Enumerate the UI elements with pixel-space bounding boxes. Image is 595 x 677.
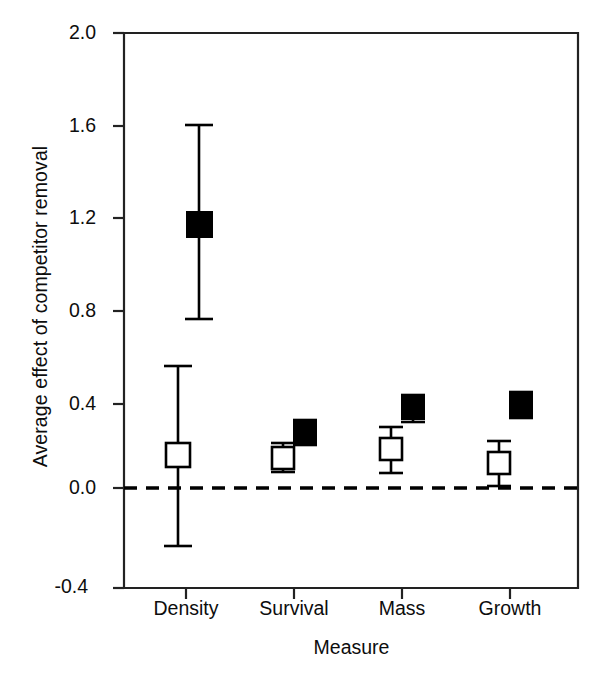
marker-mass-open [380,438,402,460]
marker-growth-open [488,452,510,474]
chart-figure: Average effect of competitor removal Mea… [0,0,595,677]
plot-svg [0,0,595,677]
x-tick-marks [186,588,510,599]
axes-frame [124,33,578,588]
marker-density-open [166,443,190,467]
marker-growth-filled [510,394,532,416]
marker-density-filled [187,212,212,237]
marker-mass-filled [402,397,424,419]
marker-survival-open [272,447,294,469]
marker-survival-filled [294,421,316,443]
y-tick-marks [113,33,124,588]
